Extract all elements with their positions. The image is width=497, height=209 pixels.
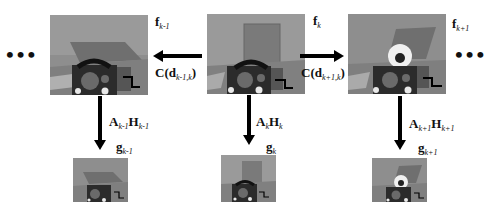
label-c-d-k-plus-1: C(dk+1,k) [301,66,345,82]
arrow-down-k-minus-1-shaft [98,96,102,140]
label-g-k-plus-1: gk+1 [418,141,437,157]
label-a-h-k-minus-1: Ak-1Hk-1 [109,115,149,131]
frame-g-k [221,155,276,202]
label-f-k-minus-1: fk-1 [155,15,170,31]
arrow-right-shaft [300,54,334,58]
ellipsis-right: ••• [455,44,487,66]
label-f-k: fk [313,14,321,30]
label-g-k: gk [266,140,276,156]
arrow-left-head [153,50,163,62]
frame-f-k-minus-1 [50,15,148,95]
frame-g-k-plus-1 [372,158,427,202]
arrow-down-k-minus-1-head [94,140,106,150]
ellipsis-left: ••• [6,44,38,66]
label-c-d-k-minus-1: C(dk-1,k) [155,66,196,82]
arrow-down-k-plus-1-shaft [398,96,402,140]
label-a-h-k-plus-1: Ak+1Hk+1 [409,117,454,133]
arrow-right-head [334,50,344,62]
frame-f-k [207,14,305,94]
label-g-k-minus-1: gk-1 [116,140,133,156]
label-f-k-plus-1: fk+1 [452,17,469,33]
label-a-h-k: AkHk [256,115,283,131]
arrow-down-k-shaft [247,95,251,135]
arrow-down-k-plus-1-head [394,140,406,150]
frame-g-k-minus-1 [73,158,128,202]
frame-f-k-plus-1 [348,14,446,94]
arrow-left-shaft [163,54,202,58]
arrow-down-k-head [243,135,255,145]
